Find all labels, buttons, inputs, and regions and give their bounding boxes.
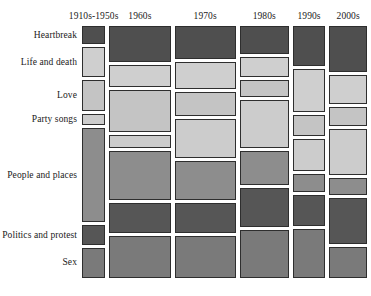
mosaic-tile[interactable]: [293, 115, 326, 136]
mosaic-tile[interactable]: [109, 135, 170, 148]
row-label-life-and-death: Life and death: [21, 57, 77, 68]
row-label-people-and-places: People and places: [7, 170, 77, 181]
mosaic-tile[interactable]: [82, 80, 105, 111]
mosaic-tile[interactable]: [82, 114, 105, 125]
mosaic-column-1980s: [240, 26, 289, 278]
mosaic-tile[interactable]: [293, 26, 326, 66]
mosaic-tile[interactable]: [175, 236, 236, 278]
mosaic-tile[interactable]: [109, 151, 170, 201]
mosaic-tile[interactable]: [329, 129, 367, 175]
mosaic-column-1960s: [109, 26, 170, 278]
mosaic-tile[interactable]: [240, 80, 289, 96]
row-label-love: Love: [57, 90, 77, 101]
mosaic-tile[interactable]: [329, 26, 367, 72]
mosaic-column-1990s: [293, 26, 326, 278]
mosaic-tile[interactable]: [109, 203, 170, 233]
mosaic-tile[interactable]: [240, 26, 289, 54]
row-label-party-songs: Party songs: [32, 114, 77, 125]
mosaic-tile[interactable]: [329, 198, 367, 244]
mosaic-tile[interactable]: [240, 57, 289, 78]
row-label-heartbreak: Heartbreak: [34, 30, 77, 41]
mosaic-tile[interactable]: [109, 90, 170, 132]
mosaic-tile[interactable]: [82, 225, 105, 244]
mosaic-tile[interactable]: [175, 161, 236, 200]
mosaic-tile[interactable]: [175, 203, 236, 233]
mosaic-column-1910s-1950s: [82, 26, 105, 278]
row-label-politics-and-protest: Politics and protest: [2, 230, 77, 241]
mosaic-tile[interactable]: [109, 65, 170, 86]
mosaic-tile[interactable]: [240, 151, 289, 185]
column-header-2000s: 2000s: [288, 8, 371, 24]
mosaic-tile[interactable]: [329, 178, 367, 195]
mosaic-tile[interactable]: [82, 26, 105, 44]
mosaic-tile[interactable]: [82, 128, 105, 223]
mosaic-plot-figure: 1910s-1950s1960s1970s1980s1990s2000s Hea…: [0, 0, 371, 296]
mosaic-tile[interactable]: [240, 188, 289, 227]
mosaic-column-2000s: [329, 26, 367, 278]
row-label-sex: Sex: [62, 257, 77, 268]
mosaic-tile[interactable]: [82, 47, 105, 77]
mosaic-tile[interactable]: [329, 247, 367, 278]
mosaic-tile[interactable]: [293, 139, 326, 171]
mosaic-tile[interactable]: [293, 174, 326, 192]
mosaic-tile[interactable]: [175, 26, 236, 59]
mosaic-tile[interactable]: [109, 26, 170, 62]
mosaic-tile[interactable]: [329, 75, 367, 104]
mosaic-tile[interactable]: [329, 107, 367, 126]
row-label-band: HeartbreakLife and deathLoveParty songsP…: [0, 0, 82, 296]
mosaic-tile[interactable]: [82, 248, 105, 278]
mosaic-tile[interactable]: [240, 230, 289, 278]
mosaic-tile[interactable]: [293, 69, 326, 112]
mosaic-tile[interactable]: [175, 119, 236, 157]
mosaic-column-1970s: [175, 26, 236, 278]
mosaic-tile[interactable]: [109, 236, 170, 278]
mosaic-tile[interactable]: [175, 62, 236, 89]
mosaic-tile[interactable]: [240, 100, 289, 148]
mosaic-tile[interactable]: [293, 229, 326, 278]
mosaic-tile[interactable]: [293, 195, 326, 226]
mosaic-plot-area: [82, 26, 367, 278]
mosaic-tile[interactable]: [175, 92, 236, 116]
